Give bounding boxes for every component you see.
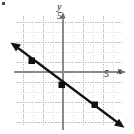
data-point-marker xyxy=(59,82,66,89)
graph-canvas xyxy=(0,0,134,134)
x-axis-tick-label-5: 5 xyxy=(104,69,109,79)
data-point-marker xyxy=(92,102,99,109)
y-axis-tick-label-5: 5 xyxy=(57,11,62,21)
coordinate-plane-line-graph: y 5 5 x xyxy=(0,0,134,134)
data-point-marker xyxy=(29,58,36,65)
x-axis-label: x xyxy=(117,66,121,76)
